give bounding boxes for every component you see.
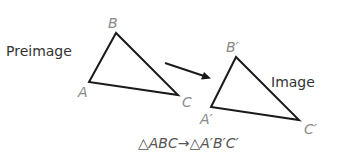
transformation-diagram: Preimage B A C Image B′ A′ C′ △ABC→△A′B′… [0, 0, 357, 156]
diagram-canvas: Preimage B A C Image B′ A′ C′ △ABC→△A′B′… [0, 0, 357, 156]
image-caption: Image [271, 74, 315, 90]
preimage-triangle [89, 33, 178, 95]
transformation-notation: △ABC→△A′B′C′ [138, 135, 240, 151]
vertex-label-c-prime: C′ [304, 121, 318, 137]
vertex-label-a: A [77, 84, 88, 100]
vertex-label-b-prime: B′ [226, 39, 240, 55]
vertex-label-b: B [108, 15, 118, 31]
vertex-label-a-prime: A′ [199, 111, 214, 127]
vertex-label-c: C [182, 94, 192, 110]
preimage-caption: Preimage [6, 43, 72, 59]
transformation-arrow-icon [165, 63, 211, 80]
